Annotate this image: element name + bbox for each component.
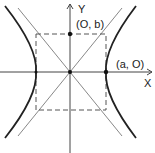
- co-vertex-point: [68, 32, 72, 36]
- vertex-right-label: (a, O): [116, 58, 144, 70]
- x-axis-label: X: [144, 77, 152, 89]
- co-vertex-label: (O, b): [76, 18, 104, 30]
- hyperbola-diagram: Y X (O, b) (a, O): [0, 0, 155, 153]
- y-axis-label: Y: [78, 3, 86, 15]
- vertex-right-point: [104, 70, 108, 74]
- origin-point: [68, 70, 72, 74]
- vertex-left-point: [35, 71, 38, 74]
